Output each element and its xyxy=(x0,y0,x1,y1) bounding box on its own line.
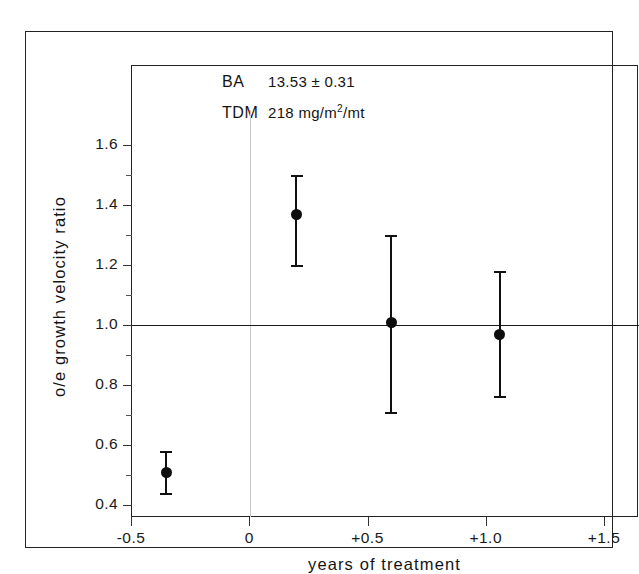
y-tick-4 xyxy=(123,265,132,266)
y-tick-label-2: 0.8 xyxy=(72,375,118,393)
error-cap-upper-1 xyxy=(291,175,303,177)
error-cap-lower-1 xyxy=(291,265,303,267)
y-tick-label-4: 1.2 xyxy=(72,255,118,273)
y-tick-2 xyxy=(123,385,132,386)
error-cap-lower-3 xyxy=(494,396,506,398)
x-tick-label-3: +1.0 xyxy=(451,529,521,547)
y-tick-5 xyxy=(123,205,132,206)
y-tick-6 xyxy=(123,145,132,146)
y-tick-minor-0 xyxy=(126,475,132,476)
marker-3 xyxy=(494,329,505,340)
x-tick-label-4: +1.5 xyxy=(569,529,639,547)
x-tick-3 xyxy=(486,517,487,526)
x-tick-label-0: -0.5 xyxy=(96,529,166,547)
x-tick-label-1: 0 xyxy=(214,529,284,547)
y-tick-minor-3 xyxy=(126,295,132,296)
y-tick-minor-2 xyxy=(126,355,132,356)
figure-frame: BA13.53 ± 0.31 TDM218 mg/m2/mt 0.40.60.8… xyxy=(25,31,613,548)
y-tick-label-1: 0.6 xyxy=(72,435,118,453)
y-tick-label-3: 1.0 xyxy=(72,315,118,333)
x-tick-2 xyxy=(368,517,369,526)
y-tick-minor-1 xyxy=(126,415,132,416)
error-cap-upper-0 xyxy=(160,451,172,453)
error-cap-upper-2 xyxy=(385,235,397,237)
marker-0 xyxy=(161,467,172,478)
error-cap-lower-2 xyxy=(385,412,397,414)
x-tick-label-2: +0.5 xyxy=(333,529,403,547)
y-tick-label-5: 1.4 xyxy=(72,195,118,213)
y-tick-label-0: 0.4 xyxy=(72,495,118,513)
x-tick-4 xyxy=(604,517,605,526)
x-tick-1 xyxy=(249,517,250,526)
zero-vertical-guide xyxy=(250,110,251,517)
error-cap-upper-3 xyxy=(494,271,506,273)
error-bar-1 xyxy=(295,175,297,265)
y-tick-minor-4 xyxy=(126,235,132,236)
error-cap-lower-0 xyxy=(160,493,172,495)
y-axis-title: o/e growth velocity ratio xyxy=(50,127,69,467)
y-tick-label-6: 1.6 xyxy=(72,135,118,153)
plot-area xyxy=(131,65,638,517)
y-tick-0 xyxy=(123,505,132,506)
marker-2 xyxy=(386,317,397,328)
y-tick-3 xyxy=(123,325,132,326)
marker-1 xyxy=(291,209,302,220)
y-tick-1 xyxy=(123,445,132,446)
y-tick-minor-5 xyxy=(126,175,132,176)
reference-line-unity xyxy=(131,325,639,326)
x-axis-title: years of treatment xyxy=(131,555,638,574)
x-tick-0 xyxy=(131,517,132,526)
